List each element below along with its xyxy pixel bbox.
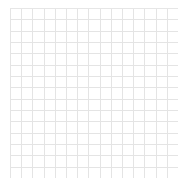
- grid-pattern-canvas: [0, 0, 191, 187]
- graph-paper-grid: [10, 8, 178, 178]
- grid-major-solid-lines: [10, 8, 178, 178]
